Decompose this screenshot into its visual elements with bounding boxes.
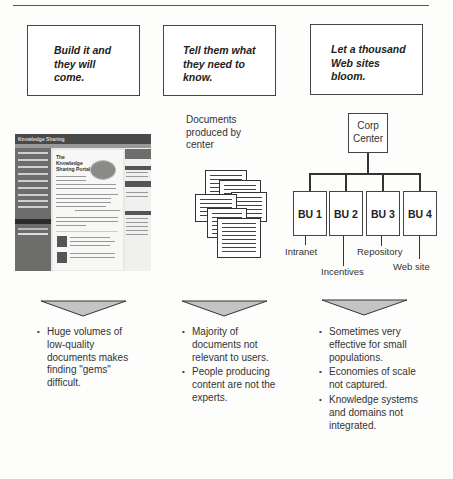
heading-text: Build it and they will come.: [54, 44, 111, 85]
outcome-text: Majority of documents not relevant to us…: [192, 326, 269, 363]
portal-panel-header: [125, 181, 151, 187]
bu-4-label: Web site: [393, 261, 430, 272]
bu-4-box: BU 4: [403, 191, 437, 236]
portal-text-line: [56, 188, 116, 189]
heading-box-thousand-sites: Let a thousand Web sites bloom.: [310, 24, 423, 95]
down-triangle-icon: [321, 299, 409, 317]
heading-line: Let a thousand: [331, 43, 406, 57]
portal-nav-highlight: [15, 219, 51, 224]
bu-2-box: BU 2: [329, 191, 363, 236]
portal-nav-item: [18, 152, 48, 154]
outcomes-list-thousand-sites: •Sometimes very effective for small popu…: [319, 326, 423, 434]
org-connector: [367, 153, 369, 174]
outcome-text: Knowledge systems and domains not integr…: [329, 394, 418, 431]
bullet-icon: •: [319, 394, 322, 407]
down-triangle-icon: [181, 300, 269, 318]
portal-news-thumbnail: [57, 252, 67, 263]
portal-text-line: [126, 234, 148, 235]
portal-text-line: [70, 245, 110, 246]
outcome-item: •Huge volumes of low-quality documents m…: [37, 326, 141, 390]
bu-3-label: Repository: [357, 246, 402, 257]
heading-line: know.: [183, 71, 256, 85]
portal-text-line: [126, 192, 148, 193]
org-connector: [309, 173, 421, 175]
portal-sidebar: [15, 148, 51, 271]
bullet-icon: •: [319, 326, 322, 339]
org-connector: [309, 173, 311, 191]
portal-text-line: [126, 218, 148, 219]
outcome-text: Economies of scale not captured.: [329, 366, 416, 390]
bullet-icon: •: [182, 366, 185, 379]
portal-title: The Knowledge Sharing Portal: [56, 154, 90, 172]
bu-3-box: BU 3: [366, 191, 400, 236]
portal-text-line: [56, 221, 118, 222]
bullet-icon: •: [182, 326, 185, 339]
portal-text-line: [70, 257, 115, 258]
portal-text-line: [56, 206, 106, 207]
portal-nav-item: [18, 200, 48, 202]
top-rule: [13, 5, 429, 6]
portal-nav-item: [18, 233, 48, 235]
portal-nav-item: [18, 194, 48, 196]
outcome-item: •Economies of scale not captured.: [319, 366, 423, 392]
bu-2-label: Incentives: [321, 266, 364, 277]
portal-text-line: [75, 210, 120, 211]
portal-text-line: [56, 225, 86, 226]
corp-center-box: Corp Center: [348, 113, 388, 153]
corp-center-line: Corp: [349, 120, 387, 133]
org-connector: [419, 173, 421, 191]
documents-label-line: produced by: [186, 127, 241, 140]
outcome-item: •Sometimes very effective for small popu…: [319, 326, 423, 364]
portal-nav-item: [18, 187, 48, 189]
outcomes-list-build-it: •Huge volumes of low-quality documents m…: [37, 326, 141, 392]
portal-text-line: [56, 180, 86, 181]
portal-text-line: [56, 202, 111, 203]
portal-text-line: [126, 230, 148, 231]
portal-title-line: Sharing Portal: [56, 166, 90, 172]
portal-text-line: [56, 176, 86, 177]
org-connector: [381, 236, 382, 246]
bullet-icon: •: [37, 326, 40, 339]
portal-nav-item: [18, 180, 48, 182]
portal-nav-item: [18, 228, 48, 230]
org-connector: [419, 236, 420, 259]
heading-box-build-it: Build it and they will come.: [27, 25, 140, 96]
heading-box-tell-them: Tell them what they need to know.: [163, 25, 276, 96]
outcome-text: Huge volumes of low-quality documents ma…: [47, 326, 128, 388]
portal-text-line: [56, 184, 116, 185]
portal-globe-image: [90, 160, 116, 180]
heading-text: Let a thousand Web sites bloom.: [331, 43, 406, 84]
heading-line: Web sites: [331, 57, 406, 71]
outcomes-list-tell-them: •Majority of documents not relevant to u…: [182, 326, 284, 407]
outcome-text: People producing content are not the exp…: [192, 366, 275, 403]
bu-1-box: BU 1: [293, 191, 327, 236]
heading-line: Build it and: [54, 44, 111, 58]
outcome-item: •People producing content are not the ex…: [182, 366, 284, 404]
knowledge-portal-screenshot: Knowledge Sharing The Knowledge Sharing …: [15, 134, 151, 271]
portal-divider: [56, 231, 118, 232]
corp-center-line: Center: [349, 133, 387, 146]
heading-text: Tell them what they need to know.: [183, 44, 256, 85]
portal-banner: Knowledge Sharing: [15, 134, 151, 144]
heading-line: they will: [54, 58, 111, 72]
portal-panel-header: [125, 166, 151, 170]
portal-search-panel: [125, 149, 151, 159]
outcome-text: Sometimes very effective for small popul…: [329, 326, 407, 363]
heading-line: come.: [54, 71, 111, 85]
heading-line: bloom.: [331, 70, 406, 84]
documents-label-line: center: [186, 139, 241, 152]
portal-text-line: [56, 198, 111, 199]
outcome-item: •Majority of documents not relevant to u…: [182, 326, 284, 364]
document-stack-icon: [195, 170, 267, 260]
portal-text-line: [70, 237, 110, 238]
portal-text-line: [126, 172, 148, 173]
portal-panel-header: [125, 211, 151, 215]
portal-news-thumbnail: [57, 236, 67, 247]
heading-line: Tell them what: [183, 44, 256, 58]
portal-text-line: [56, 194, 118, 195]
heading-line: they need to: [183, 58, 256, 72]
portal-nav-item: [18, 159, 48, 161]
portal-text-line: [70, 253, 115, 254]
down-triangle-icon: [40, 300, 128, 318]
bu-1-label: Intranet: [285, 246, 317, 257]
